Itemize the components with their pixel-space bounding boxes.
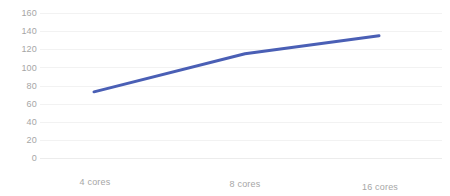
x-tick-label: 8 cores	[230, 180, 261, 189]
x-axis: 4 cores 8 cores 16 cores	[0, 0, 450, 196]
x-tick-label: 16 cores	[362, 183, 398, 192]
line-chart: 160 140 120 100 80 60 40 20 0 4 cores 8 …	[0, 0, 450, 196]
x-tick-label: 4 cores	[80, 178, 111, 187]
